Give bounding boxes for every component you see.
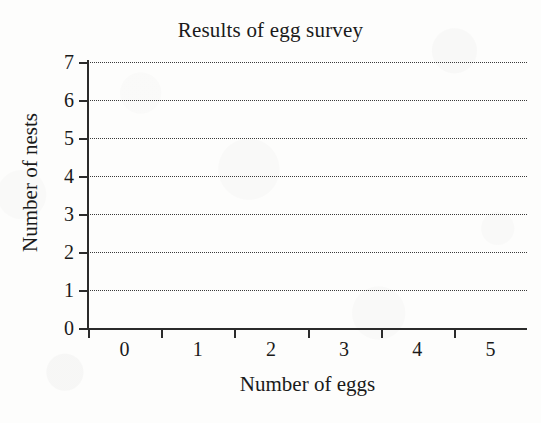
y-tick-4 xyxy=(79,176,88,178)
y-tick-2 xyxy=(79,252,88,254)
x-tick-boundary-5 xyxy=(454,329,456,338)
gridline-y-1 xyxy=(88,290,527,291)
y-tick-0 xyxy=(79,328,88,330)
x-tick-boundary-2 xyxy=(234,329,236,338)
x-tick-label-1: 1 xyxy=(178,339,218,359)
y-tick-7 xyxy=(79,62,88,64)
gridline-y-4 xyxy=(88,176,527,177)
gridline-y-2 xyxy=(88,252,527,253)
x-tick-boundary-4 xyxy=(381,329,383,338)
y-tick-label-7: 7 xyxy=(52,52,74,72)
y-tick-label-6: 6 xyxy=(52,90,74,110)
gridline-y-3 xyxy=(88,214,527,215)
y-tick-label-3: 3 xyxy=(52,204,74,224)
chart-page: Results of egg survey 01234567 012345 Nu… xyxy=(0,0,541,423)
x-tick-label-2: 2 xyxy=(251,339,291,359)
gridline-y-7 xyxy=(88,62,527,63)
x-tick-boundary-0 xyxy=(88,329,90,338)
x-tick-boundary-3 xyxy=(308,329,310,338)
y-tick-1 xyxy=(79,290,88,292)
gridline-y-5 xyxy=(88,138,527,139)
gridline-y-6 xyxy=(88,100,527,101)
x-tick-label-0: 0 xyxy=(105,339,145,359)
x-tick-label-4: 4 xyxy=(397,339,437,359)
x-axis-title: Number of eggs xyxy=(88,372,527,397)
x-tick-label-3: 3 xyxy=(324,339,364,359)
chart-title: Results of egg survey xyxy=(0,18,541,43)
y-tick-label-2: 2 xyxy=(52,242,74,262)
y-tick-label-5: 5 xyxy=(52,128,74,148)
y-tick-label-4: 4 xyxy=(52,166,74,186)
y-tick-label-0: 0 xyxy=(52,318,74,338)
x-tick-boundary-1 xyxy=(161,329,163,338)
y-tick-5 xyxy=(79,138,88,140)
plot-area xyxy=(88,62,527,328)
x-tick-label-5: 5 xyxy=(470,339,510,359)
y-tick-3 xyxy=(79,214,88,216)
y-axis-tick-labels: 01234567 xyxy=(50,0,74,423)
y-tick-label-1: 1 xyxy=(52,280,74,300)
y-axis-title: Number of nests xyxy=(18,83,43,283)
y-tick-6 xyxy=(79,100,88,102)
